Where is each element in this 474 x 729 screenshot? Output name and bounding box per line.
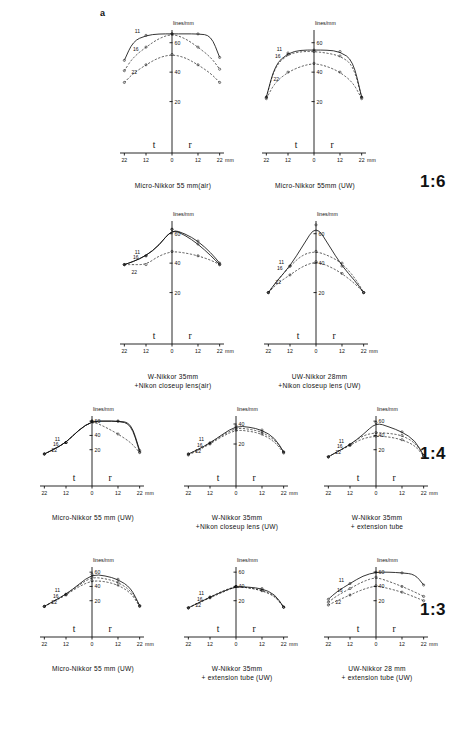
svg-text:22: 22 [121,348,127,354]
svg-text:mm: mm [429,490,438,496]
svg-text:12: 12 [207,641,213,647]
svg-text:r: r [108,473,112,483]
svg-text:0: 0 [315,348,318,354]
svg-text:12: 12 [63,641,69,647]
svg-text:r: r [188,140,192,150]
chart-caption-r2c2: UW-Nikkor 28mm +Nikon closeup lens (UW) [242,373,397,390]
svg-text:22: 22 [51,447,57,453]
svg-text:lines/mm: lines/mm [377,406,398,412]
svg-text:0: 0 [313,157,316,163]
svg-text:20: 20 [379,447,385,453]
svg-text:mm: mm [225,157,234,163]
svg-text:16: 16 [197,442,203,448]
svg-text:11: 11 [277,46,282,52]
svg-text:22: 22 [281,490,287,496]
svg-text:60: 60 [175,40,181,46]
svg-text:40: 40 [319,260,325,266]
panel-label-a: a [100,8,105,18]
svg-text:0: 0 [375,641,378,647]
svg-text:22: 22 [335,449,341,455]
svg-text:12: 12 [143,348,149,354]
svg-text:r: r [392,624,396,634]
svg-text:22: 22 [275,279,281,285]
svg-text:11: 11 [135,28,140,34]
chart-r4c1: lines/mm204060221201222mmtr111622 [28,551,156,663]
svg-text:60: 60 [317,40,323,46]
svg-text:22: 22 [281,641,287,647]
svg-text:12: 12 [339,348,345,354]
svg-text:60: 60 [95,569,101,575]
svg-text:r: r [188,331,192,341]
svg-text:22: 22 [185,641,191,647]
svg-text:20: 20 [95,447,101,453]
chart-caption-r4c1: Micro-Nikkor 55 mm (UW) [18,665,168,674]
svg-text:20: 20 [239,441,245,447]
svg-text:r: r [332,331,336,341]
svg-text:r: r [252,473,256,483]
svg-text:20: 20 [317,99,323,105]
svg-text:mm: mm [145,641,154,647]
svg-text:12: 12 [347,490,353,496]
svg-text:40: 40 [95,583,101,589]
svg-text:r: r [392,473,396,483]
chart-svg: lines/mm204060221201222mmtr111622 [28,400,156,512]
chart-svg: lines/mm204060221201222mmtr111622 [172,551,300,663]
svg-text:12: 12 [399,641,405,647]
svg-text:t: t [73,624,76,634]
ratio-label-1-4: 1:4 [420,444,446,464]
chart-svg: lines/mm2040221201222mmtr111622 [172,400,300,512]
svg-text:22: 22 [185,490,191,496]
svg-text:0: 0 [235,490,238,496]
svg-text:20: 20 [239,598,245,604]
svg-text:22: 22 [51,599,57,605]
chart-caption-r3c1: Micro-Nikkor 55 mm (UW) [18,514,168,523]
svg-text:12: 12 [195,348,201,354]
chart-caption-r1c2: Micro-Nikkor 55mm (UW) [240,182,390,191]
chart-svg: lines/mm204060221201222mmtr111622 [28,551,156,663]
svg-text:16: 16 [277,265,283,271]
svg-text:12: 12 [337,157,343,163]
svg-text:t: t [217,473,220,483]
svg-text:20: 20 [379,598,385,604]
svg-text:20: 20 [319,290,325,296]
svg-text:20: 20 [175,99,181,105]
svg-text:0: 0 [91,490,94,496]
svg-text:12: 12 [195,157,201,163]
svg-text:mm: mm [145,490,154,496]
svg-text:22: 22 [421,490,427,496]
svg-text:16: 16 [337,443,343,449]
chart-caption-r2c1: W-Nikkor 35mm +Nikon closeup lens(air) [98,373,248,390]
svg-text:22: 22 [325,490,331,496]
svg-text:20: 20 [95,598,101,604]
svg-text:16: 16 [133,46,139,52]
svg-text:mm: mm [367,157,376,163]
svg-text:12: 12 [63,490,69,496]
chart-svg: lines/mm204060221201222mmtr111622 [108,14,236,179]
svg-text:12: 12 [285,157,291,163]
svg-text:60: 60 [379,418,385,424]
svg-text:40: 40 [175,260,181,266]
chart-svg: lines/mm204060221201222mmtr111622 [108,205,236,370]
svg-text:mm: mm [289,641,298,647]
svg-text:22: 22 [131,269,137,275]
svg-text:mm: mm [225,348,234,354]
svg-text:0: 0 [171,348,174,354]
svg-text:11: 11 [339,577,344,583]
svg-text:12: 12 [287,348,293,354]
svg-text:16: 16 [197,596,203,602]
chart-caption-r4c3: UW-Nikkor 28 mm + extension tube (UW) [302,665,452,682]
svg-text:t: t [153,331,156,341]
chart-caption-r3c3: W-Nikkor 35mm + extension tube [302,514,452,531]
svg-text:lines/mm: lines/mm [173,211,194,217]
svg-text:40: 40 [317,69,323,75]
svg-text:22: 22 [137,490,143,496]
svg-text:40: 40 [95,432,101,438]
chart-r2c2: lines/mm204060221201222mmtr111622 [252,205,380,370]
svg-text:lines/mm: lines/mm [377,557,398,563]
svg-text:22: 22 [265,348,271,354]
svg-text:60: 60 [239,569,245,575]
svg-text:lines/mm: lines/mm [317,211,338,217]
svg-text:22: 22 [195,448,201,454]
svg-text:16: 16 [337,587,343,593]
svg-text:22: 22 [325,641,331,647]
